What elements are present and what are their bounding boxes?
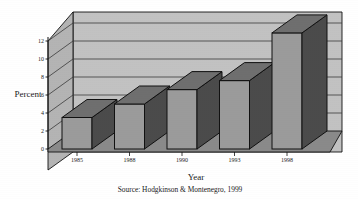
- x-axis-ticks: 19851988199019931998: [71, 152, 293, 163]
- y-tick-label: 2: [41, 128, 44, 134]
- y-tick-label: 0: [41, 146, 44, 152]
- bar: [220, 63, 275, 149]
- bar-chart-3d: 024681012 19851988199019931998 Percent Y…: [0, 0, 358, 199]
- x-tick-label: 1985: [71, 157, 83, 163]
- bar-side-face: [302, 15, 327, 149]
- source-note: Source: Hodgkinson & Montenegro, 1999: [118, 185, 243, 194]
- bar-front-face: [62, 118, 92, 150]
- bar-front-face: [220, 81, 250, 149]
- y-axis-title: Percent: [15, 89, 42, 99]
- x-tick-label: 1998: [281, 157, 293, 163]
- bar: [272, 15, 327, 149]
- y-tick-label: 4: [41, 110, 44, 116]
- x-tick-label: 1988: [124, 157, 136, 163]
- x-axis-title: Year: [188, 172, 205, 182]
- bar-front-face: [115, 104, 145, 149]
- bar: [167, 72, 222, 149]
- x-tick-label: 1990: [176, 157, 188, 163]
- chart-figure: 024681012 19851988199019931998 Percent Y…: [0, 0, 358, 199]
- bar-front-face: [167, 90, 197, 149]
- y-tick-label: 12: [38, 38, 44, 44]
- y-tick-label: 10: [38, 56, 44, 62]
- y-tick-label: 8: [41, 74, 44, 80]
- bar-front-face: [272, 33, 302, 149]
- x-tick-label: 1993: [229, 157, 241, 163]
